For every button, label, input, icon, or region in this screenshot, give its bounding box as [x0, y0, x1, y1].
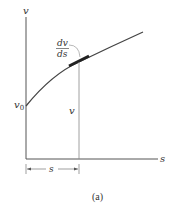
- y-axis-label: v: [23, 5, 29, 16]
- x-axis-label: s: [160, 153, 165, 164]
- s-dimension-label: s: [49, 164, 54, 174]
- v-s-curve: [26, 32, 143, 106]
- slope-label-denominator: ds: [57, 49, 68, 59]
- velocity-position-diagram: v s v0 dv ds v s (a): [0, 0, 170, 209]
- slope-label-numerator: dv: [57, 38, 68, 48]
- slope-arc: [69, 45, 80, 57]
- vertical-line-label: v: [69, 105, 75, 116]
- figure-caption: (a): [92, 191, 103, 203]
- s-dimension-arrow-right: [74, 168, 78, 171]
- v0-label: v0: [14, 99, 24, 112]
- s-dimension-arrow-left: [27, 168, 31, 171]
